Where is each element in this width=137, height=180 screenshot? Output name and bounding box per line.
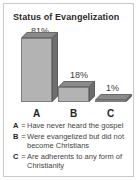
chart-frame: Status of Evangelization 81% 18% 1% xyxy=(3,3,134,177)
chart-title: Status of Evangelization xyxy=(13,12,119,22)
legend-description-a: Have never heard the gospel xyxy=(27,121,134,131)
bar-c xyxy=(95,100,126,102)
bar-a xyxy=(21,38,52,102)
plot-area: 81% 18% 1% xyxy=(13,26,132,108)
legend-item-a: A = Have never heard the gospel xyxy=(13,121,134,131)
legend-key-a: A xyxy=(13,121,20,131)
legend-description-c: Are adherents to any form of Christianit… xyxy=(27,152,134,171)
bar-a-front xyxy=(21,38,52,102)
chart-figure: Status of Evangelization 81% 18% 1% xyxy=(0,0,137,180)
legend-item-b: B = Were evangelized but did not become … xyxy=(13,132,134,151)
chart-legend: A = Have never heard the gospel B = Were… xyxy=(13,121,134,172)
category-label-c: C xyxy=(95,108,126,119)
bar-value-label-b: 18% xyxy=(70,70,88,80)
category-label-b: B xyxy=(58,108,89,119)
legend-description-b: Were evangelized but did not become Chri… xyxy=(27,132,134,151)
category-label-a: A xyxy=(21,108,52,119)
bar-b-side xyxy=(89,81,95,102)
bar-b-front xyxy=(58,87,89,102)
legend-key-c: C xyxy=(13,152,20,162)
legend-item-c: C = Are adherents to any form of Christi… xyxy=(13,152,134,171)
category-axis: A B C xyxy=(13,108,132,120)
bar-c-front xyxy=(95,100,126,102)
bar-b xyxy=(58,87,89,102)
legend-separator-b: = xyxy=(20,132,27,142)
legend-key-b: B xyxy=(13,132,20,142)
legend-separator-c: = xyxy=(20,152,27,162)
bar-value-label-c: 1% xyxy=(106,83,119,93)
legend-separator-a: = xyxy=(20,121,27,131)
